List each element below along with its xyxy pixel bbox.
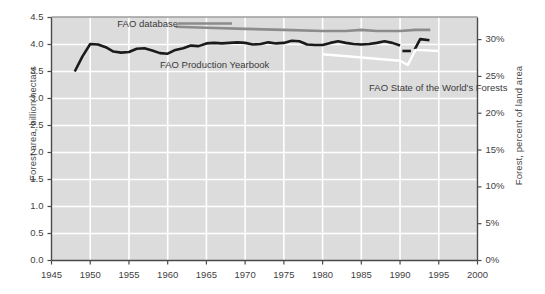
- y-axis-tick-left: 0.5: [10, 227, 44, 238]
- chart-container: Forest area, billion hectars Forest, per…: [0, 0, 545, 294]
- y-axis-tick-right: 30%: [486, 33, 526, 44]
- x-axis-tick: 1960: [148, 269, 188, 280]
- x-axis-tick: 1950: [70, 269, 110, 280]
- x-axis-tick: 1980: [303, 269, 343, 280]
- y-axis-tick-left: 4.5: [10, 11, 44, 22]
- y-axis-tick-right: 25%: [486, 70, 526, 81]
- y-axis-tick-right: 15%: [486, 144, 526, 155]
- x-axis-tick: 2000: [458, 269, 498, 280]
- y-axis-tick-left: 0.0: [10, 254, 44, 265]
- x-axis-tick: 1985: [341, 269, 381, 280]
- y-axis-tick-left: 1.0: [10, 200, 44, 211]
- series-annotation-label: FAO Production Yearbook: [160, 59, 269, 70]
- x-axis-tick: 1990: [380, 269, 420, 280]
- x-axis-tick: 1945: [32, 269, 72, 280]
- y-axis-tick-left: 3.0: [10, 92, 44, 103]
- y-axis-tick-left: 1.5: [10, 173, 44, 184]
- y-axis-tick-right: 20%: [486, 107, 526, 118]
- x-axis-tick: 1965: [186, 269, 226, 280]
- x-axis-tick: 1970: [225, 269, 265, 280]
- y-axis-tick-right: 5%: [486, 217, 526, 228]
- y-axis-tick-left: 4.0: [10, 38, 44, 49]
- y-axis-tick-left: 3.5: [10, 65, 44, 76]
- y-axis-tick-right: 0%: [486, 254, 526, 265]
- series-annotation-label: FAO State of the World's Forests: [369, 82, 507, 93]
- y-axis-tick-right: 10%: [486, 180, 526, 191]
- x-axis-tick: 1975: [264, 269, 304, 280]
- y-axis-tick-left: 2.0: [10, 146, 44, 157]
- x-axis-tick: 1955: [109, 269, 149, 280]
- series-annotation-label: FAO database: [117, 18, 178, 29]
- x-axis-tick: 1995: [419, 269, 459, 280]
- y-axis-tick-left: 2.5: [10, 119, 44, 130]
- chart-plot-area: [0, 0, 545, 294]
